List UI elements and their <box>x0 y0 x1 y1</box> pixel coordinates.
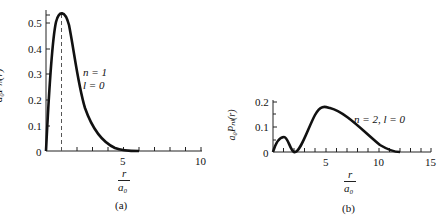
panel-a-annotation-l: l = 0 <box>83 80 104 91</box>
panel-b-annotation: n = 2, l = 0 <box>354 114 405 125</box>
panel-a-annotation-n: n = 1 <box>83 67 107 78</box>
panel-b-ytick-0: 0 <box>263 148 269 159</box>
panel-b-ytick-1: 0.1 <box>255 122 269 133</box>
panel-a-xlabel-num: r <box>122 168 126 179</box>
panel-a-ytick-4: 0.4 <box>28 44 42 55</box>
panel-b-xlabel-den: a₀ <box>344 183 353 194</box>
panel-b-axes <box>273 100 431 152</box>
panel-b-xlabel-num: r <box>348 169 352 180</box>
panel-a-ytick-1: 0.1 <box>28 121 42 132</box>
charts-canvas <box>0 0 443 222</box>
panel-a-xtick-5: 5 <box>120 156 126 167</box>
panel-a-xlabel-den: a₀ <box>118 182 127 193</box>
panel-b-xtick-10: 10 <box>373 157 384 168</box>
panel-a-ytick-0: 0 <box>36 147 42 158</box>
panel-a-ytick-3: 0.3 <box>28 69 42 80</box>
panel-b-ytick-2: 0.2 <box>255 97 269 108</box>
panel-b-caption: (b) <box>342 203 355 214</box>
panel-b-xtick-15: 15 <box>425 157 436 168</box>
panel-a-xtick-10: 10 <box>195 156 206 167</box>
panel-b-xtick-5: 5 <box>323 157 329 168</box>
panel-a-ytick-2: 0.2 <box>28 95 42 106</box>
panel-a-ytick-5: 0.5 <box>28 18 42 29</box>
panel-a-ylabel: a₀Pₙₗ(r) <box>0 69 4 103</box>
panel-a-caption: (a) <box>115 200 127 211</box>
panel-b-ylabel: a₀Pₙₗ(r) <box>227 109 237 140</box>
